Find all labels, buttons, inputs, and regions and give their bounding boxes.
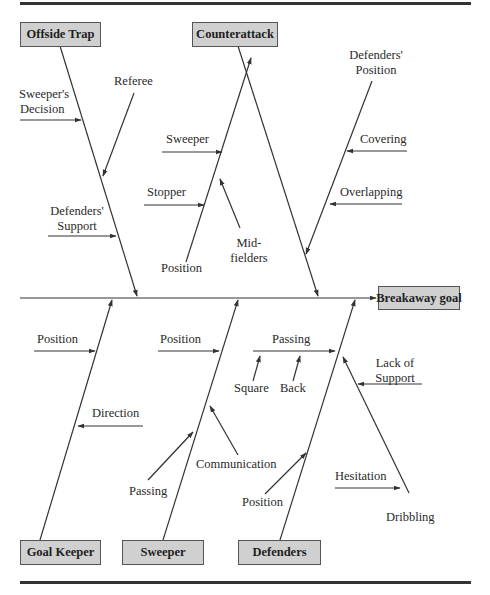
label-hesitation: Hesitation: [335, 469, 386, 484]
label-df-position: Position: [242, 495, 283, 510]
category-box-goal-keeper: Goal Keeper: [20, 540, 101, 565]
referee-arrow: [103, 93, 134, 176]
label-sweepers-decision-2: Decision: [20, 102, 64, 117]
label-sw-communication: Communication: [196, 457, 277, 472]
category-box-defenders: Defenders: [238, 540, 321, 565]
category-box-offside-trap: Offside Trap: [20, 22, 101, 47]
label-sw-passing: Passing: [129, 484, 167, 499]
label-ca-sweeper: Sweeper: [166, 132, 209, 147]
label-sweepers-decision-1: Sweeper's: [19, 87, 69, 102]
label-ca-midfielders-2: fielders: [226, 251, 272, 266]
effect-box-breakaway-goal: Breakaway goal: [378, 286, 460, 310]
category-box-counterattack: Counterattack: [192, 22, 278, 47]
defenders-position-bone: [306, 81, 372, 254]
label-overlapping: Overlapping: [340, 185, 402, 200]
label-defenders-support-2: Support: [47, 219, 107, 234]
df-back-arrow: [293, 356, 300, 381]
label-df-passing: Passing: [272, 332, 310, 347]
label-gk-position: Position: [37, 332, 78, 347]
sw-passing-arrow: [148, 432, 193, 480]
label-df-square: Square: [234, 381, 269, 396]
label-covering: Covering: [360, 132, 407, 147]
label-ca-position: Position: [161, 261, 202, 276]
ca-position-bone: [186, 58, 251, 262]
label-gk-direction: Direction: [92, 406, 139, 421]
ca-midfielders-arrow: [220, 179, 240, 228]
label-defenders-support-1: Defenders': [47, 204, 107, 219]
label-defenders-position-2: Position: [343, 63, 409, 78]
df-square-arrow: [253, 356, 260, 381]
sw-communication-arrow: [210, 406, 238, 455]
label-lack-of-support-2: Support: [367, 371, 423, 386]
label-lack-of-support-1: Lack of: [367, 356, 423, 371]
label-sw-position: Position: [160, 332, 201, 347]
label-ca-midfielders-1: Mid-: [226, 236, 272, 251]
label-dribbling: Dribbling: [386, 510, 435, 525]
label-ca-stopper: Stopper: [147, 185, 186, 200]
label-df-back: Back: [280, 381, 306, 396]
category-box-sweeper: Sweeper: [122, 540, 204, 565]
label-referee: Referee: [114, 74, 153, 89]
label-defenders-position-1: Defenders': [343, 48, 409, 63]
